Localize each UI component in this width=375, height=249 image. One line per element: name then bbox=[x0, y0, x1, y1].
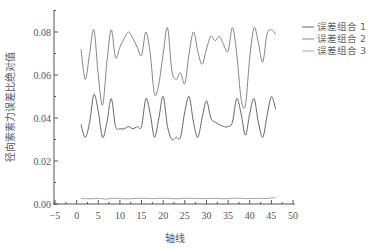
legend: 误差组合 1 误差组合 2 误差组合 3 bbox=[302, 21, 366, 56]
series-line-3 bbox=[81, 198, 276, 200]
legend-item-3: 误差组合 3 bbox=[302, 45, 366, 56]
x-tick-label: 20 bbox=[158, 210, 168, 221]
legend-label-2: 误差组合 2 bbox=[317, 33, 366, 44]
y-axis-title: 径向索索力误差比绝对值 bbox=[4, 52, 16, 162]
legend-label-1: 误差组合 1 bbox=[317, 21, 366, 32]
x-tick-label: 25 bbox=[180, 210, 190, 221]
x-axis-title: 轴线 bbox=[165, 232, 185, 244]
x-tick-label: 40 bbox=[245, 210, 255, 221]
y-tick-label: 0.04 bbox=[34, 113, 52, 124]
x-ticks: −505101520253035404550 bbox=[50, 200, 298, 221]
x-tick-label: 50 bbox=[288, 210, 298, 221]
x-tick-label: 45 bbox=[266, 210, 276, 221]
x-tick-label: 15 bbox=[137, 210, 147, 221]
x-tick-label: 10 bbox=[115, 210, 125, 221]
series-line-1 bbox=[81, 94, 276, 140]
plot-lines bbox=[81, 27, 276, 199]
x-tick-label: 0 bbox=[74, 210, 79, 221]
legend-label-3: 误差组合 3 bbox=[317, 45, 366, 56]
x-tick-label: 5 bbox=[96, 210, 101, 221]
x-tick-label: 30 bbox=[201, 210, 211, 221]
legend-item-1: 误差组合 1 bbox=[302, 21, 366, 32]
series-line-2 bbox=[81, 27, 276, 108]
y-tick-label: 0.06 bbox=[34, 70, 52, 81]
x-tick-label: 35 bbox=[223, 210, 233, 221]
line-chart: 0.000.020.040.060.08 −505101520253035404… bbox=[0, 0, 375, 249]
y-tick-label: 0.00 bbox=[34, 199, 52, 210]
y-tick-label: 0.08 bbox=[34, 27, 52, 38]
legend-item-2: 误差组合 2 bbox=[302, 33, 366, 44]
y-tick-label: 0.02 bbox=[34, 156, 52, 167]
x-tick-label: −5 bbox=[50, 210, 61, 221]
